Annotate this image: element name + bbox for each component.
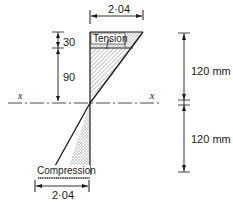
bottom-width-label: 2·04	[52, 189, 74, 201]
arrow-left-icon	[36, 184, 42, 188]
height-lower-label: 120 mm	[191, 133, 231, 145]
neutral-axis: x x	[8, 90, 160, 103]
height-dimensions: 120 mm 120 mm	[178, 33, 231, 172]
arrow-right-icon	[136, 14, 142, 18]
arrow-down-icon	[56, 96, 60, 101]
top-width-label: 2·04	[108, 3, 130, 15]
depth-dimensions: 30 90	[52, 32, 75, 101]
bottom-width-dimension: 2·04	[35, 180, 89, 201]
arrow-up-icon	[182, 34, 186, 40]
arrow-up-icon	[182, 105, 186, 111]
axis-label-right: x	[149, 90, 155, 101]
top-width-dimension: 2·04	[90, 3, 143, 24]
height-upper-label: 120 mm	[191, 65, 231, 77]
tension-zone: Tension f'	[90, 32, 143, 103]
stress-diagram: 2·04 Tension f' Compression 2·04	[0, 0, 233, 205]
dim-30-label: 30	[63, 36, 75, 48]
compression-label: Compression	[37, 165, 96, 176]
arrow-up-icon	[56, 49, 60, 54]
arrow-left-icon	[91, 14, 97, 18]
arrow-up-icon	[56, 33, 60, 38]
arrow-down-icon	[182, 94, 186, 100]
arrow-down-icon	[56, 42, 60, 47]
compression-zone: Compression	[36, 103, 96, 178]
axis-label-left: x	[17, 90, 23, 101]
stress-f-prime-label: f'	[106, 38, 112, 49]
arrow-down-icon	[182, 165, 186, 171]
arrow-right-icon	[82, 184, 88, 188]
dim-90-label: 90	[63, 71, 75, 83]
